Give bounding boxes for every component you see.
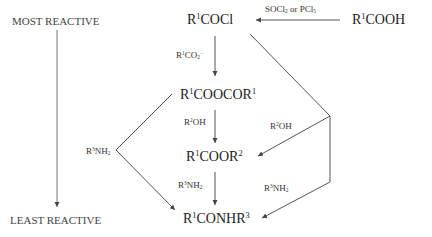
compound-ester: R1COOR2 <box>186 149 243 165</box>
reagent-alcohol-center: R2OH <box>184 117 206 127</box>
reagent-text: CO <box>185 50 198 60</box>
compound-carboxylic-acid: R1COOH <box>352 12 405 28</box>
reagent-alcohol-right: R2OH <box>270 121 292 131</box>
r-group: R <box>180 87 189 102</box>
subscript: 2 <box>286 187 289 193</box>
reagent-text: OH <box>193 117 206 127</box>
superscript: 2 <box>238 149 242 158</box>
most-reactive-label: MOST REACTIVE <box>12 15 100 27</box>
formula-rest: COCl <box>201 12 234 27</box>
reagent-carboxylate: R1CO2− <box>176 50 203 60</box>
chloride-to-ester-amide-line <box>250 34 330 182</box>
reagent-text: NH <box>187 180 200 190</box>
charge: − <box>200 50 203 56</box>
superscript: 3 <box>246 211 250 220</box>
r-group: R <box>352 12 361 27</box>
reagent-socl2-pcl5: SOCl2 or PCl5 <box>265 4 316 14</box>
compound-amide: R1CONHR3 <box>183 211 250 227</box>
arrows-layer <box>0 0 432 237</box>
subscript: 5 <box>313 8 316 14</box>
reagent-amine-left: R3NH2 <box>86 146 110 156</box>
subscript: 2 <box>200 184 203 190</box>
subscript: 2 <box>108 150 111 156</box>
reagent-amine-center: R3NH2 <box>178 180 202 190</box>
compound-acid-chloride: R1COCl <box>187 12 233 28</box>
compound-anhydride: R1COOCOR1 <box>180 87 256 103</box>
superscript: 1 <box>252 87 256 96</box>
least-reactive-label: LEAST REACTIVE <box>10 214 101 226</box>
r-group: R <box>187 12 196 27</box>
reagent-text: NH <box>273 183 286 193</box>
reagent-text: NH <box>95 146 108 156</box>
formula-rest: COOR <box>200 149 239 164</box>
r-group: R <box>183 211 192 226</box>
r-group: R <box>186 149 195 164</box>
reagent-text: SOCl <box>265 4 285 14</box>
formula-rest: CONHR <box>197 211 246 226</box>
formula-rest: COOCOR <box>194 87 252 102</box>
reagent-text: or PCl <box>288 4 314 14</box>
reagent-amine-right: R3NH2 <box>264 183 288 193</box>
chloride-to-ester-arrow <box>258 116 330 156</box>
anhydride-to-amide-arrow <box>116 94 175 210</box>
formula-rest: COOH <box>366 12 406 27</box>
reagent-text: OH <box>279 121 292 131</box>
